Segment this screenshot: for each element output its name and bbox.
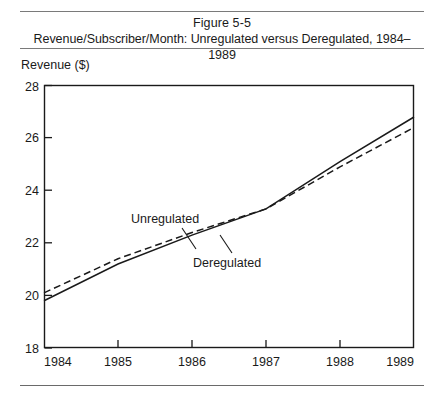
annotation-deregulated: Deregulated [193,256,261,270]
y-tick-label: 28 [25,80,39,94]
x-tick-label: 1984 [44,355,72,369]
plot-frame [45,86,414,348]
line-chart-plot: 18 20 22 24 26 28 1984 1985 1986 1987 19… [0,0,444,399]
figure-container: Figure 5-5 Revenue/Subscriber/Month: Unr… [0,0,444,399]
series-line-unregulated [44,117,414,301]
x-tick-label: 1987 [252,355,280,369]
x-tick-label: 1988 [326,355,354,369]
x-tick-label: 1989 [386,355,414,369]
y-tick-label: 22 [25,236,39,250]
y-tick-label: 20 [25,289,39,303]
y-tick-marks [45,86,53,349]
bottom-divider-rule [20,385,424,386]
annotation-unregulated: Unregulated [131,212,199,226]
leader-line-deregulated [220,235,232,253]
x-tick-label: 1986 [178,355,206,369]
x-tick-labels: 1984 1985 1986 1987 1988 1989 [44,355,414,369]
x-tick-marks [118,340,340,348]
y-tick-label: 26 [25,131,39,145]
y-tick-labels: 18 20 22 24 26 28 [25,80,39,356]
x-tick-label: 1985 [104,355,132,369]
y-tick-label: 24 [25,184,39,198]
y-tick-label: 18 [25,342,39,356]
